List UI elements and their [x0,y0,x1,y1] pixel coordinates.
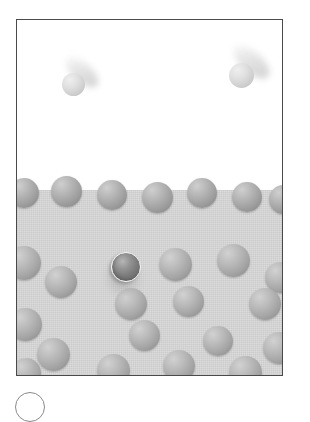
surface-molecule [232,182,262,212]
surface-molecule [51,176,82,207]
liquid-molecule [37,338,70,371]
liquid-molecule [129,320,160,351]
highlighted-molecule [111,252,141,282]
escaping-molecule-left [62,73,85,96]
surface-molecule [187,178,217,208]
illustration-frame [16,19,283,376]
liquid-molecule [45,266,77,298]
surface-molecule [142,182,173,213]
liquid-molecule [249,288,281,320]
escaping-molecule-right [229,63,254,88]
figure-caption-badge [15,392,45,422]
surface-molecule [97,180,127,210]
liquid-molecule [159,248,192,281]
liquid-molecule [163,350,195,376]
liquid-molecule [173,286,204,317]
liquid-molecule [203,326,233,356]
liquid-molecule [217,244,250,277]
